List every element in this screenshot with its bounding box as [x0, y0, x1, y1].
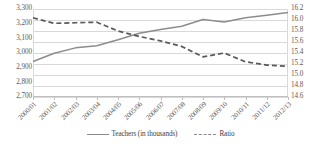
series-line-ratio — [33, 18, 288, 66]
y-axis-right-tick-label: 15.0 — [291, 71, 303, 78]
y-axis-left-tick-label: 3,300 — [16, 5, 32, 12]
legend-item-ratio: Ratio — [194, 131, 234, 138]
plot-area — [33, 9, 288, 97]
y-axis-left-tick-label: 3,000 — [16, 49, 32, 56]
series-line-teachers — [33, 13, 288, 62]
x-axis-tick — [224, 97, 225, 100]
y-axis-left-tick-label: 3,100 — [16, 35, 32, 42]
x-axis-tick — [54, 97, 55, 100]
x-axis-tick — [246, 97, 247, 100]
chart-legend: Teachers (in thousands) Ratio — [0, 131, 321, 138]
y-axis-right-tick-label: 15.6 — [291, 38, 303, 45]
x-axis-tick — [97, 97, 98, 100]
x-axis-tick — [139, 97, 140, 100]
legend-label-ratio: Ratio — [219, 131, 234, 138]
y-axis-right-tick-label: 16.2 — [291, 5, 303, 12]
legend-label-teachers: Teachers (in thousands) — [112, 131, 178, 138]
y-axis-right-tick-label: 15.2 — [291, 60, 303, 67]
x-axis-tick — [76, 97, 77, 100]
y-axis-right-tick-label: 15.8 — [291, 27, 303, 34]
y-axis-right-tick-label: 14.8 — [291, 82, 303, 89]
y-axis-left-tick-label: 2,800 — [16, 79, 32, 86]
y-axis-left-tick-label: 2,700 — [16, 93, 32, 100]
legend-item-teachers: Teachers (in thousands) — [87, 131, 178, 138]
x-axis-tick — [161, 97, 162, 100]
series-lines — [33, 9, 288, 97]
x-axis-tick — [203, 97, 204, 100]
legend-line-dashed-icon — [194, 134, 216, 135]
y-axis-right-tick-label: 16.0 — [291, 16, 303, 23]
y-axis-right-tick-label: 14.6 — [291, 93, 303, 100]
y-axis-left-tick-label: 2,900 — [16, 64, 32, 71]
x-axis-tick — [267, 97, 268, 100]
legend-line-solid-icon — [87, 134, 109, 135]
x-axis-tick — [33, 97, 34, 100]
x-axis-tick — [182, 97, 183, 100]
x-axis-tick — [118, 97, 119, 100]
chart-container: 2,7002,8002,9003,0003,1003,2003,300 14.6… — [0, 0, 321, 147]
x-axis-tick — [288, 97, 289, 100]
y-axis-left-tick-label: 3,200 — [16, 20, 32, 27]
y-axis-right-tick-label: 15.4 — [291, 49, 303, 56]
